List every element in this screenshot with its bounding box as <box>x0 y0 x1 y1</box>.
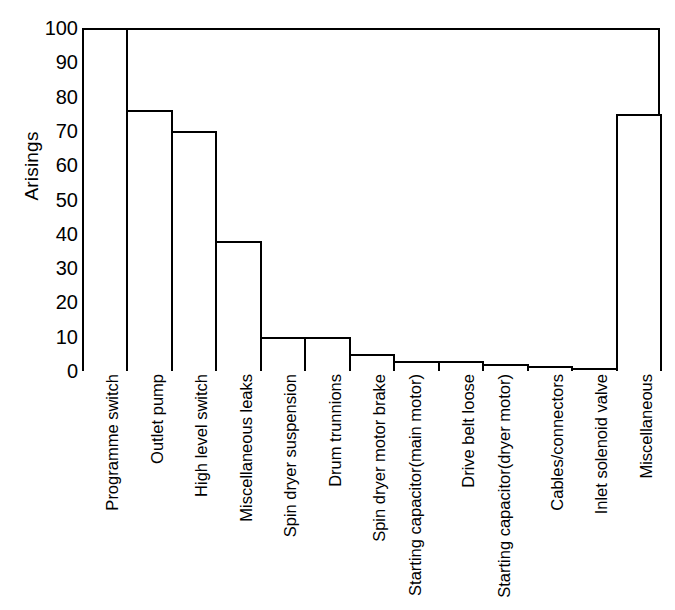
y-tick-label-90: 90 <box>22 52 78 72</box>
x-label-slot-12: Miscellaneous <box>616 374 660 606</box>
x-tick-label-11: Inlet solenoid valve <box>593 374 610 514</box>
x-tick-label-7: Starting capacitor(main motor) <box>406 374 424 596</box>
bar-8 <box>438 361 484 371</box>
x-tick-label-4: Spin dryer suspension <box>282 374 299 537</box>
x-label-slot-4: Spin dryer suspension <box>260 374 304 606</box>
y-tick-label-80: 80 <box>22 87 78 107</box>
y-tick-label-30: 30 <box>22 258 78 278</box>
x-tick-label-5-line-0: Drum trunnions <box>326 374 344 487</box>
bar-7 <box>393 361 439 371</box>
bar-9 <box>482 364 528 371</box>
x-tick-label-7-line-0: Starting capacitor <box>406 468 424 596</box>
bar-6 <box>349 354 395 371</box>
x-tick-label-12: Miscellaneous <box>638 374 655 479</box>
bar-10 <box>527 366 573 371</box>
y-tick-label-20: 20 <box>22 292 78 312</box>
x-label-slot-9: Starting capacitor(dryer motor) <box>482 374 526 606</box>
x-label-slot-8: Drive belt loose <box>438 374 482 606</box>
x-label-slot-6: Spin dryer motor brake <box>349 374 393 606</box>
x-tick-label-5: Drum trunnions <box>327 374 344 487</box>
bar-2 <box>171 131 217 371</box>
x-tick-label-0: Programme switch <box>104 374 121 511</box>
x-label-slot-1: Outlet pump <box>126 374 170 606</box>
x-tick-label-7-line-1: (main motor) <box>406 374 424 468</box>
x-tick-label-3-line-0: Miscellaneous leaks <box>237 374 255 522</box>
x-tick-label-9: Starting capacitor(dryer motor) <box>495 374 513 598</box>
y-tick-label-70: 70 <box>22 121 78 141</box>
bar-4 <box>260 337 306 371</box>
x-tick-label-8: Drive belt loose <box>460 374 477 488</box>
x-label-slot-3: Miscellaneous leaks <box>215 374 259 606</box>
x-axis-tick-labels: Programme switchOutlet pumpHigh level sw… <box>82 374 660 606</box>
x-label-slot-11: Inlet solenoid valve <box>571 374 615 606</box>
x-tick-label-12-line-0: Miscellaneous <box>637 374 655 479</box>
x-tick-label-11-line-0: Inlet solenoid valve <box>592 374 610 514</box>
x-tick-label-2-line-0: High level switch <box>192 374 210 497</box>
x-tick-label-4-line-0: Spin dryer suspension <box>281 374 299 537</box>
y-tick-label-10: 10 <box>22 327 78 347</box>
bar-12 <box>616 114 662 371</box>
y-tick-label-100: 100 <box>22 18 78 38</box>
bar-5 <box>304 337 350 371</box>
x-tick-label-2: High level switch <box>193 374 210 497</box>
bar-3 <box>215 241 261 371</box>
x-label-slot-7: Starting capacitor(main motor) <box>393 374 437 606</box>
x-tick-label-8-line-0: Drive belt loose <box>459 374 477 488</box>
bar-chart: Arisings 1009080706050403020100 Programm… <box>0 0 675 610</box>
bars-layer <box>82 28 660 371</box>
x-tick-label-1-line-0: Outlet pump <box>148 374 166 464</box>
x-tick-label-1: Outlet pump <box>149 374 166 464</box>
x-tick-label-0-line-0: Programme switch <box>103 374 121 511</box>
x-tick-label-9-line-1: (dryer motor) <box>495 374 513 469</box>
x-label-slot-2: High level switch <box>171 374 215 606</box>
x-tick-label-3: Miscellaneous leaks <box>238 374 255 522</box>
x-label-slot-5: Drum trunnions <box>304 374 348 606</box>
y-tick-label-0: 0 <box>22 361 78 381</box>
x-tick-label-9-line-0: Starting capacitor <box>495 469 513 597</box>
y-tick-label-40: 40 <box>22 224 78 244</box>
x-tick-label-10: Cables/connectors <box>549 374 566 511</box>
bar-0 <box>82 28 128 371</box>
x-label-slot-10: Cables/connectors <box>527 374 571 606</box>
y-tick-label-60: 60 <box>22 155 78 175</box>
x-tick-label-6: Spin dryer motor brake <box>371 374 388 542</box>
x-label-slot-0: Programme switch <box>82 374 126 606</box>
x-tick-label-10-line-0: Cables/connectors <box>548 374 566 511</box>
bar-1 <box>126 110 172 371</box>
x-tick-label-6-line-0: Spin dryer motor brake <box>370 374 388 542</box>
y-tick-label-50: 50 <box>22 190 78 210</box>
y-axis-tick-labels: 1009080706050403020100 <box>22 28 78 371</box>
bar-11 <box>571 368 617 371</box>
